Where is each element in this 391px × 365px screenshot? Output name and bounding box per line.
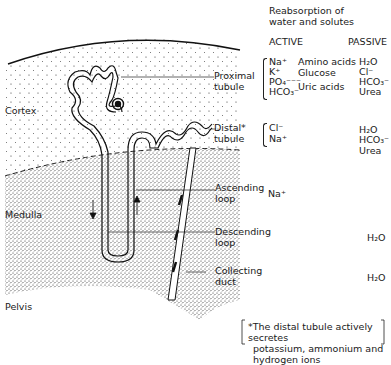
column-header-passive: PASSIVE	[348, 37, 387, 48]
footnote: *The distal tubule actively secretes pot…	[248, 321, 391, 365]
column-header-active: ACTIVE	[269, 37, 303, 48]
label-ascending-line2: loop	[215, 194, 235, 205]
label-ascending-line1: Ascending	[215, 183, 264, 194]
ascending-active-ion: Na⁺	[268, 189, 286, 200]
region-label-pelvis: Pelvis	[5, 302, 32, 313]
proximal-passive: Urea	[359, 87, 381, 98]
label-collecting-line1: Collecting	[215, 266, 262, 277]
medulla-region	[5, 149, 240, 320]
proximal-active-other: Amino acids	[298, 57, 356, 68]
footnote-line2: potassium, ammonium and hydrogen ions	[248, 343, 391, 365]
footnote-line1: *The distal tubule actively secretes	[248, 321, 391, 343]
distal-passive: HCO₃⁻	[359, 135, 389, 146]
nephron-illustration	[0, 0, 391, 365]
label-proximal-line1: Proximal	[214, 71, 255, 82]
proximal-active-ion: HCO₃⁻	[269, 87, 299, 98]
label-distal-line1: Distal*	[214, 123, 246, 134]
label-distal-line2: tubule	[214, 134, 244, 145]
region-label-cortex: Cortex	[5, 106, 36, 117]
descending-passive: H₂O	[367, 233, 385, 244]
label-proximal-line2: tubule	[214, 82, 244, 93]
label-descending-line1: Descending	[215, 227, 271, 238]
label-descending-line2: loop	[215, 238, 235, 249]
header-title-line2: water and solutes	[269, 17, 354, 28]
distal-passive: Urea	[359, 146, 381, 157]
collecting-passive: H₂O	[367, 273, 385, 284]
region-label-medulla: Medulla	[5, 210, 42, 221]
distal-active-ion: Cl⁻	[269, 123, 283, 134]
distal-active-ion: Na⁺	[269, 134, 287, 145]
proximal-active-other: Uric acids	[298, 82, 344, 93]
brace-distal	[263, 123, 267, 147]
label-collecting-line2: duct	[215, 277, 236, 288]
brace-proximal	[263, 58, 267, 100]
proximal-active-other: Glucose	[298, 68, 336, 79]
header-title-line1: Reabsorption of	[269, 6, 344, 17]
